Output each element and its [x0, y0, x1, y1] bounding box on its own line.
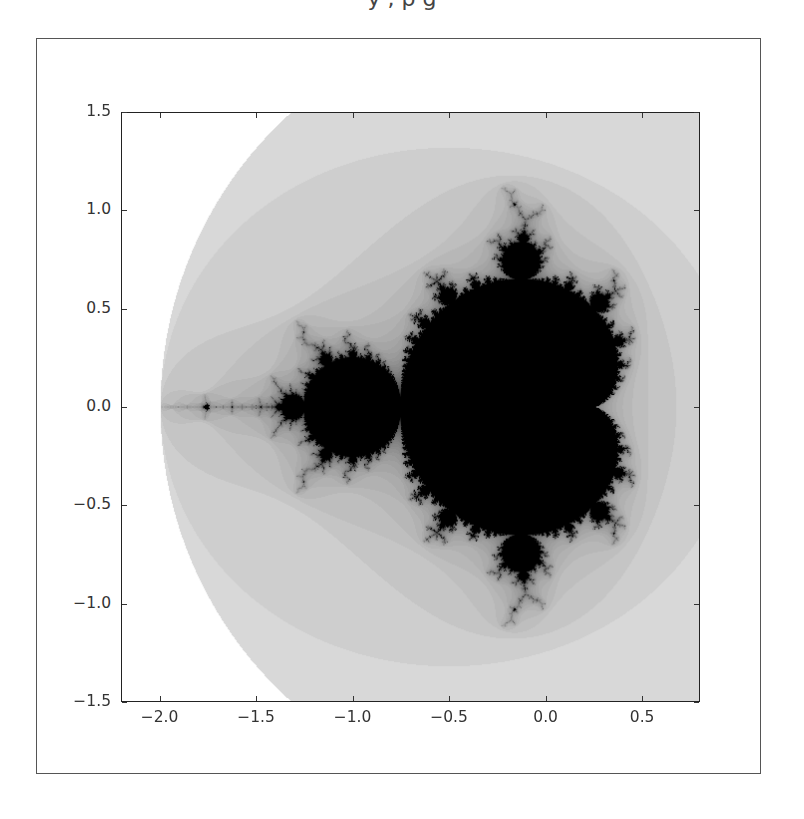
x-tick-label: 0.5	[612, 708, 672, 726]
y-tick-label: −1.0	[51, 594, 111, 612]
x-tick-label: 0.0	[516, 708, 576, 726]
y-tick-mark-right	[694, 604, 699, 605]
y-tick-mark-right	[694, 505, 699, 506]
y-tick-mark-left	[122, 210, 127, 211]
y-tick-mark-right	[694, 112, 699, 113]
y-tick-mark-right	[694, 210, 699, 211]
x-tick-mark-top	[160, 113, 161, 118]
y-tick-mark-left	[122, 702, 127, 703]
x-tick-label: −2.0	[130, 708, 190, 726]
x-tick-label: −1.5	[226, 708, 286, 726]
y-tick-mark-left	[122, 505, 127, 506]
y-tick-mark-left	[122, 112, 127, 113]
x-tick-mark-top	[256, 113, 257, 118]
x-tick-mark-top	[353, 113, 354, 118]
y-tick-label: 1.0	[51, 200, 111, 218]
y-tick-mark-left	[122, 407, 127, 408]
mandelbrot-image	[122, 113, 699, 701]
y-tick-mark-right	[694, 407, 699, 408]
x-tick-mark-bottom	[642, 696, 643, 701]
caption-fragment: y , p g	[0, 0, 804, 11]
x-tick-mark-bottom	[256, 696, 257, 701]
x-tick-mark-bottom	[546, 696, 547, 701]
x-tick-mark-bottom	[353, 696, 354, 701]
y-tick-mark-left	[122, 604, 127, 605]
y-tick-label: 1.5	[51, 102, 111, 120]
plot-axes	[121, 112, 700, 702]
x-tick-label: −0.5	[419, 708, 479, 726]
x-tick-mark-top	[546, 113, 547, 118]
y-tick-label: −0.5	[51, 495, 111, 513]
y-tick-label: 0.5	[51, 299, 111, 317]
y-tick-mark-left	[122, 309, 127, 310]
y-tick-mark-right	[694, 702, 699, 703]
x-tick-mark-top	[449, 113, 450, 118]
y-tick-mark-right	[694, 309, 699, 310]
y-tick-label: 0.0	[51, 397, 111, 415]
x-tick-mark-bottom	[160, 696, 161, 701]
x-tick-mark-bottom	[449, 696, 450, 701]
y-tick-label: −1.5	[51, 692, 111, 710]
x-tick-label: −1.0	[323, 708, 383, 726]
x-tick-mark-top	[642, 113, 643, 118]
